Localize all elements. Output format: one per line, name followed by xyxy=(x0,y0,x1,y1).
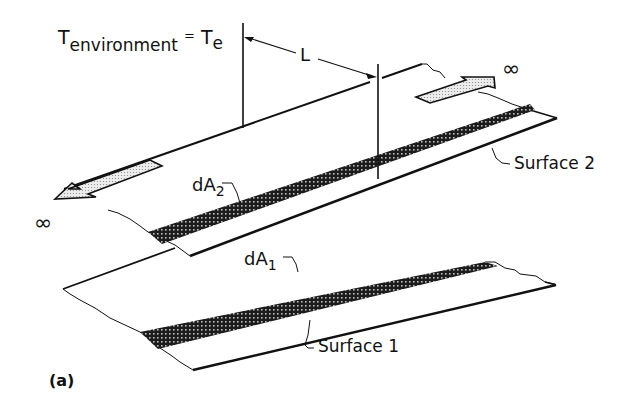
te-symbol: T xyxy=(201,26,213,48)
element-da2-label: dA2 xyxy=(192,176,225,198)
arrow-left-icon xyxy=(53,155,175,201)
length-label: L xyxy=(300,46,310,64)
arrow-right-icon xyxy=(416,77,495,103)
environment-temperature-label: Tenvironment = Te xyxy=(58,28,223,54)
e-subscript: e xyxy=(213,33,223,53)
infinity-left-label: ∞ xyxy=(34,212,52,234)
environment-subscript: environment xyxy=(70,35,178,55)
parallel-plates-diagram xyxy=(0,0,628,413)
da1-subscript: 1 xyxy=(268,257,277,273)
surface-1-label: Surface 1 xyxy=(318,338,399,355)
surface-2-label: Surface 2 xyxy=(514,155,595,172)
da2-subscript: 2 xyxy=(216,183,225,199)
da1-symbol: dA xyxy=(244,248,268,269)
surface-2-plate xyxy=(64,64,557,256)
da2-symbol: dA xyxy=(192,174,216,195)
distance-markers xyxy=(243,23,378,179)
equals-sign: = xyxy=(184,28,195,43)
panel-label: (a) xyxy=(49,373,74,389)
infinity-right-label: ∞ xyxy=(502,58,520,80)
t-symbol: T xyxy=(58,26,70,48)
element-da1-label: dA1 xyxy=(244,250,277,272)
